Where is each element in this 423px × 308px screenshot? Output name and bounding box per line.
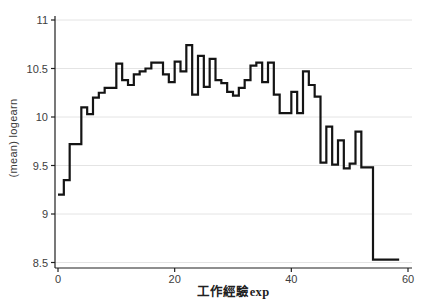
- y-tick-label: 11: [37, 14, 48, 26]
- step-series: [58, 45, 399, 259]
- y-tick-label: 10.5: [27, 63, 48, 75]
- x-tick-label: 0: [55, 273, 61, 285]
- y-tick-label: 10: [36, 111, 48, 123]
- y-tick-label: 8.5: [33, 257, 48, 269]
- x-axis-label: 工作經驗exp: [133, 281, 333, 300]
- x-tick-label: 60: [402, 273, 414, 285]
- y-axis-label: (mean) logearn: [7, 38, 19, 238]
- y-tick-label: 9: [42, 208, 48, 220]
- step-chart: 8.599.51010.5110204060: [0, 0, 423, 308]
- chart-figure: 8.599.51010.5110204060 (mean) logearn 工作…: [0, 0, 423, 308]
- y-tick-label: 9.5: [33, 160, 48, 172]
